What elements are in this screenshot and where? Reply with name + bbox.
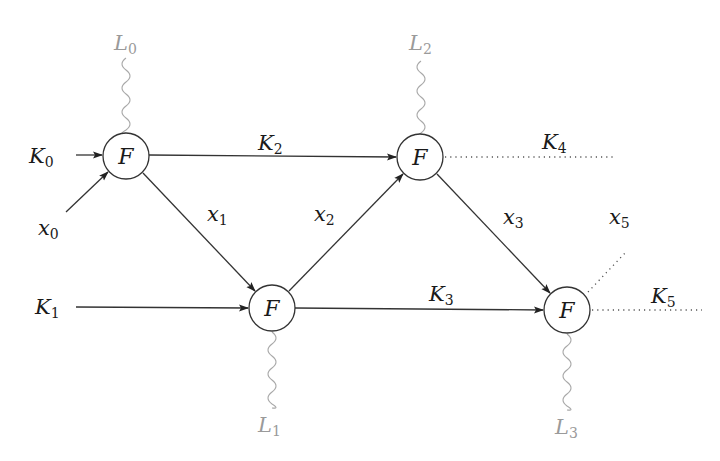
wavy-line-l3: [563, 334, 571, 410]
label-l3: L3: [554, 415, 578, 441]
label-k5: K5: [650, 284, 676, 310]
f-node-1: F: [249, 285, 295, 331]
f-node-3: F: [544, 287, 590, 333]
wavy-line-l0: [122, 58, 130, 134]
label-k1: K1: [34, 295, 60, 321]
label-l2: L2: [408, 31, 432, 57]
edge-f3-out-x5-dotted: [588, 252, 626, 292]
edge-f0-to-f2-k2: [149, 155, 396, 157]
f-node-0: F: [103, 133, 149, 179]
label-k4: K4: [541, 130, 567, 156]
label-x1: x1: [207, 202, 228, 228]
label-x5: x5: [609, 205, 630, 231]
f-node-label: F: [117, 144, 134, 169]
edge-f0-to-f1-x1: [143, 173, 255, 291]
feistel-diagram: F F F F K0 K1 K2 K3 K4 K5 x0 x1 x2 x3 x5…: [0, 0, 720, 461]
edge-f1-to-f2-x2: [289, 174, 403, 291]
edge-f1-to-f3-k3: [295, 308, 543, 310]
label-k0: K0: [28, 144, 54, 170]
label-k2: K2: [257, 131, 283, 157]
wavy-line-l1: [268, 332, 276, 408]
label-l0: L0: [113, 31, 137, 57]
edge-x0-to-f0: [66, 172, 108, 212]
label-x3: x3: [503, 205, 524, 231]
wavy-line-l2: [417, 61, 425, 136]
edge-k1-to-f1: [76, 307, 248, 308]
f-node-label: F: [263, 296, 280, 321]
label-k3: K3: [428, 282, 454, 308]
edge-f2-to-f3-x3: [437, 174, 550, 293]
f-node-2: F: [397, 134, 443, 180]
label-x2: x2: [314, 202, 335, 228]
f-node-label: F: [411, 145, 428, 170]
label-x0: x0: [38, 216, 59, 242]
label-l1: L1: [257, 413, 281, 439]
f-node-label: F: [558, 298, 575, 323]
